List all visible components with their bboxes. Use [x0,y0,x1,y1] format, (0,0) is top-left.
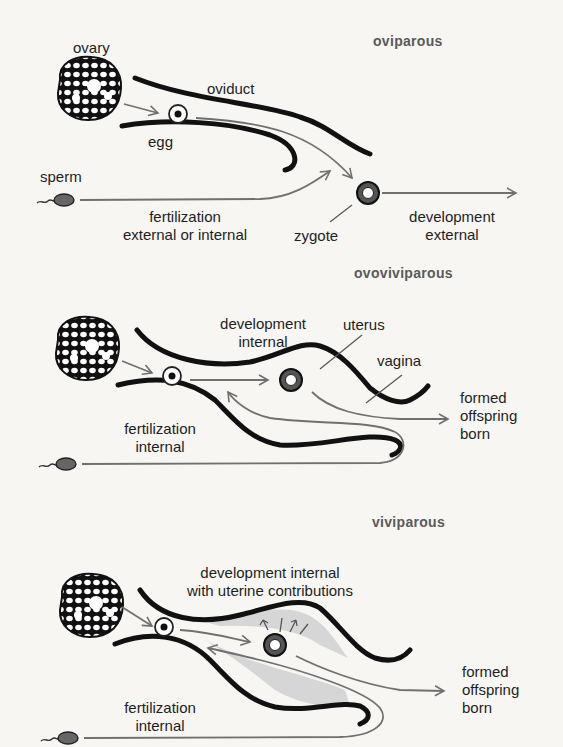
egg-travel-arrow [196,118,352,178]
fertilization-line2: internal [110,717,210,735]
formed-offspring-born-label: formed offspring born [462,663,519,717]
egg-icon [155,618,173,636]
outcome-line3: born [462,699,519,717]
fertilization-internal-label: fertilization internal [110,699,210,735]
ovulation-arrow [122,361,152,373]
fertilization-line1: fertilization [110,420,210,438]
fertilization-internal-label: fertilization internal [110,420,210,456]
zygote-icon [357,182,379,204]
fertilization-line1: fertilization [100,208,270,226]
egg-label: egg [148,133,173,151]
ovulation-arrow [124,104,158,113]
uterus-leader-line [320,335,362,369]
development-line1: development [208,315,318,333]
vagina-label: vagina [377,352,421,370]
sperm-icon [41,732,78,744]
fertilization-line2: external or internal [100,226,270,244]
development-external-label: development external [392,208,512,244]
outcome-line1: formed [462,663,519,681]
development-line1: development [392,208,512,226]
formed-offspring-born-label: formed offspring born [460,389,517,443]
ovary-icon [58,57,121,120]
sperm-path-arrow [80,171,330,200]
outcome-line1: formed [460,389,517,407]
outcome-line3: born [460,425,517,443]
development-line2: with uterine contributions [160,582,380,600]
zygote-leader-line [330,205,352,222]
outcome-line2: offspring [462,681,519,699]
fertilization-label: fertilization external or internal [100,208,270,244]
zygote-icon [264,634,286,656]
panel-title-viviparous: viviparous [372,514,445,530]
uterus-label: uterus [343,316,385,334]
ovary-icon [60,574,123,637]
panel-oviparous [37,57,516,222]
panel-title-ovoviviparous: ovoviviparous [354,265,453,281]
development-line1: development internal [160,564,380,582]
sperm-label: sperm [40,168,82,186]
egg-travel-arrow [180,630,250,642]
fertilization-line1: fertilization [110,699,210,717]
ovulation-arrow [122,607,152,626]
ovary-icon [56,317,119,380]
zygote-label: zygote [294,227,338,245]
oviduct-label: oviduct [207,80,255,98]
egg-icon [163,367,181,385]
development-line2: internal [208,333,318,351]
reproduction-modes-diagram [0,0,563,747]
development-internal-label: development internal [208,315,318,351]
development-uterine-label: development internal with uterine contri… [160,564,380,600]
outcome-line2: offspring [460,407,517,425]
fertilization-line2: internal [110,438,210,456]
sperm-icon [39,458,76,470]
egg-icon [169,105,187,123]
zygote-icon [280,369,302,391]
panel-title-oviparous: oviparous [373,33,443,49]
ovary-label: ovary [73,39,110,57]
development-line2: external [392,226,512,244]
sperm-icon [37,194,74,206]
